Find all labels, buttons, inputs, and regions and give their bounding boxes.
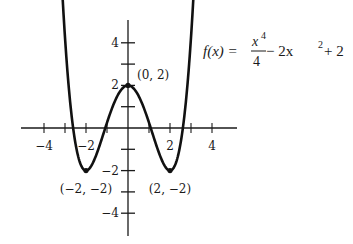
x-tick-label: −2	[77, 139, 95, 153]
key-point-label: (−2, −2)	[60, 182, 112, 196]
function-rest: − 2x	[266, 43, 294, 59]
key-point-label: (2, −2)	[149, 182, 191, 196]
fraction-numerator-exponent: 4	[261, 30, 266, 41]
function-rest-term: − 2x	[266, 43, 294, 59]
x-tick-label: 2	[166, 139, 174, 153]
function-graph: −4−224 42−2−4 (0, 2)(−2, −2)(2, −2) f(x)…	[0, 0, 353, 244]
function-tail: + 2	[324, 43, 344, 59]
fraction-denominator: 4	[253, 54, 260, 69]
function-label: f(x) =	[203, 43, 238, 60]
x-tick-label: −4	[35, 139, 53, 153]
x-tick-label: 4	[208, 139, 216, 153]
key-point-marker	[125, 83, 130, 88]
function-rest-text: − 2x	[266, 43, 294, 59]
key-point-marker	[83, 168, 88, 173]
function-rest-exponent: 2	[318, 39, 323, 50]
fraction-numerator: x	[251, 34, 259, 49]
y-tick-label: 2	[111, 78, 119, 92]
y-tick-label: 4	[111, 36, 119, 50]
y-tick-label: −4	[101, 206, 119, 220]
x-tick-labels: −4−224	[35, 139, 216, 153]
y-tick-label: −2	[101, 164, 119, 178]
key-point-label: (0, 2)	[137, 68, 169, 82]
function-fraction: x 4 4	[251, 30, 266, 69]
function-lhs: f(x) =	[203, 43, 238, 60]
key-point-marker	[167, 168, 172, 173]
